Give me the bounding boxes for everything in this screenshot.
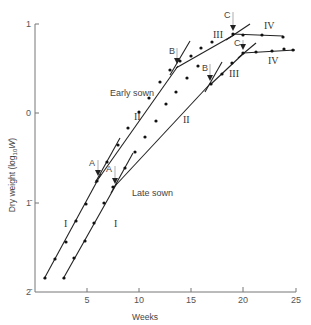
label-early-sown: Early sown xyxy=(110,88,154,98)
label-C-early: C xyxy=(224,10,231,20)
label-A-late: A xyxy=(106,164,112,174)
late-sown-points xyxy=(62,47,294,279)
phase-IV-early: IV xyxy=(264,20,275,31)
y-tick-0: 0 xyxy=(26,108,31,118)
x-tick-15: 15 xyxy=(186,295,196,305)
y-tick-1: 1 xyxy=(26,19,31,29)
early-sown-points xyxy=(43,32,284,279)
x-tick-labels: 5 10 15 20 25 xyxy=(84,295,301,305)
series-early-sown xyxy=(44,24,283,279)
y-axis-title: Dry weight (log10W) xyxy=(7,138,18,212)
y-tick-minus1: 1̄ xyxy=(26,198,33,208)
x-tick-20: 20 xyxy=(238,295,248,305)
x-tick-5: 5 xyxy=(84,295,89,305)
label-B-late: B xyxy=(202,63,208,73)
y-tick-minus2: 2̄ xyxy=(26,287,33,297)
y-tick-labels: 1 0 1̄ 2̄ xyxy=(26,19,33,297)
phase-IV-late: IV xyxy=(268,55,279,66)
axes xyxy=(35,24,296,292)
label-B-early: B xyxy=(169,46,175,56)
phase-II-late: II xyxy=(183,114,190,125)
growth-chart: 1 0 1̄ 2̄ 5 10 15 20 25 Weeks Dry weight… xyxy=(0,0,311,325)
x-tick-10: 10 xyxy=(134,295,144,305)
label-A-early: A xyxy=(89,158,95,168)
x-axis-title: Weeks xyxy=(132,312,158,322)
phase-arrows xyxy=(95,12,246,184)
x-tick-25: 25 xyxy=(291,295,301,305)
phase-I-early: I xyxy=(64,218,67,229)
phase-I-late: I xyxy=(114,218,117,229)
phase-II-early: II xyxy=(134,111,141,122)
phase-III-late: III xyxy=(229,68,239,79)
label-C-late: C xyxy=(234,38,241,48)
phase-III-early: III xyxy=(213,29,223,40)
label-late-sown: Late sown xyxy=(132,188,173,198)
